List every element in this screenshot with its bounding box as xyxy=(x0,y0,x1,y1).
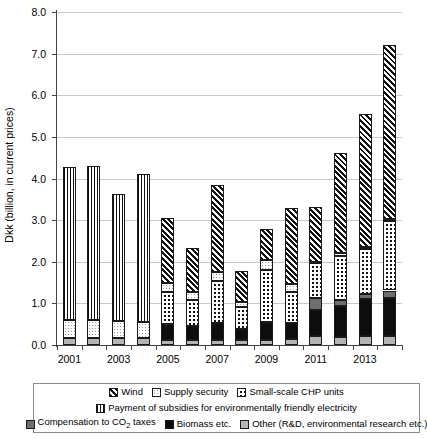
bar-segment-supply xyxy=(285,284,298,292)
bar-segment-subsidy xyxy=(112,194,125,321)
legend-swatch-other-icon xyxy=(240,420,249,429)
bar-segment-co2 xyxy=(359,294,372,299)
legend-item-supply[interactable]: Supply security xyxy=(152,384,228,400)
bar-segment-other xyxy=(211,340,224,345)
bar-2003[interactable] xyxy=(112,12,125,345)
x-tick-mark xyxy=(131,345,132,350)
x-tick-mark xyxy=(57,345,58,350)
x-tick-mark xyxy=(82,345,83,350)
y-tick-label: 0.0 xyxy=(10,339,46,351)
bar-segment-supply xyxy=(186,292,199,300)
bar-2008[interactable] xyxy=(235,12,248,345)
bar-segment-biomass xyxy=(235,329,248,340)
bar-2010[interactable] xyxy=(285,12,298,345)
bar-segment-wind xyxy=(334,153,347,254)
x-tick-mark xyxy=(328,345,329,350)
bar-segment-supply xyxy=(87,320,100,338)
y-tick-label: 5.0 xyxy=(10,131,46,143)
bar-segment-chp xyxy=(383,221,396,290)
bar-segment-supply xyxy=(334,253,347,255)
bar-segment-chp xyxy=(260,270,273,322)
x-tick-label-2005: 2005 xyxy=(148,353,188,365)
bar-segment-other xyxy=(309,336,322,345)
bar-segment-wind xyxy=(309,207,322,262)
legend-label: Compensation to CO2 taxes xyxy=(38,414,156,434)
x-tick-label-2007: 2007 xyxy=(197,353,237,365)
bar-segment-wind xyxy=(285,208,298,284)
x-tick-mark xyxy=(303,345,304,350)
legend-item-co2[interactable]: Compensation to CO2 taxes xyxy=(26,414,156,434)
bar-segment-other xyxy=(359,336,372,345)
legend-swatch-biomass-icon xyxy=(165,420,174,429)
bar-segment-wind xyxy=(186,248,199,292)
bar-segment-biomass xyxy=(161,324,174,339)
x-tick-label-2013: 2013 xyxy=(345,353,385,365)
bar-segment-chp xyxy=(309,263,322,298)
bar-segment-other xyxy=(112,338,125,345)
bar-2012[interactable] xyxy=(334,12,347,345)
x-tick-mark xyxy=(353,345,354,350)
bar-2001[interactable] xyxy=(63,12,76,345)
bar-segment-biomass xyxy=(285,323,298,340)
bar-2011[interactable] xyxy=(309,12,322,345)
bar-segment-biomass xyxy=(383,298,396,337)
legend-swatch-supply-icon xyxy=(152,388,161,397)
bar-segment-other xyxy=(63,338,76,345)
x-tick-mark xyxy=(279,345,280,350)
bar-segment-supply xyxy=(211,272,224,281)
bar-segment-co2 xyxy=(309,298,322,309)
bar-segment-subsidy xyxy=(63,167,76,320)
bar-2002[interactable] xyxy=(87,12,100,345)
x-tick-mark xyxy=(254,345,255,350)
legend-swatch-subsidy-icon xyxy=(96,404,105,413)
legend-label: Biomass etc. xyxy=(177,416,231,432)
bar-segment-wind xyxy=(161,218,174,283)
bar-segment-other xyxy=(285,339,298,345)
x-tick-mark xyxy=(156,345,157,350)
x-tick-label-2003: 2003 xyxy=(99,353,139,365)
bar-2014[interactable] xyxy=(383,12,396,345)
bar-segment-biomass xyxy=(211,323,224,340)
bar-2005[interactable] xyxy=(161,12,174,345)
legend-swatch-co2-icon xyxy=(26,420,35,429)
legend-item-other[interactable]: Other (R&D, environmental research etc.) xyxy=(240,416,427,432)
bar-2009[interactable] xyxy=(260,12,273,345)
x-tick-mark xyxy=(230,345,231,350)
bar-group xyxy=(57,12,402,345)
chart-legend: WindSupply securitySmall-scale CHP units… xyxy=(33,383,420,433)
bar-segment-biomass xyxy=(334,306,347,337)
x-tick-mark xyxy=(402,345,403,350)
legend-label: Wind xyxy=(121,384,143,400)
bar-2013[interactable] xyxy=(359,12,372,345)
bar-segment-subsidy xyxy=(87,166,100,319)
bar-2007[interactable] xyxy=(211,12,224,345)
bar-segment-supply xyxy=(359,247,372,249)
bar-segment-other xyxy=(260,340,273,345)
x-tick-mark xyxy=(106,345,107,350)
legend-swatch-wind-icon xyxy=(109,388,118,397)
legend-label: Other (R&D, environmental research etc.) xyxy=(252,416,427,432)
bar-segment-chp xyxy=(285,292,298,322)
bar-segment-co2 xyxy=(383,291,396,298)
legend-item-biomass[interactable]: Biomass etc. xyxy=(165,416,231,432)
bar-segment-supply xyxy=(112,321,125,338)
bar-segment-co2 xyxy=(334,300,347,305)
bar-segment-other xyxy=(235,340,248,345)
bar-segment-supply xyxy=(235,302,248,307)
bar-segment-other xyxy=(334,337,347,345)
bar-segment-supply xyxy=(383,219,396,221)
bar-segment-other xyxy=(161,340,174,345)
legend-item-chp[interactable]: Small-scale CHP units xyxy=(237,384,343,400)
legend-item-wind[interactable]: Wind xyxy=(109,384,143,400)
x-tick-mark xyxy=(205,345,206,350)
bar-segment-chp xyxy=(235,307,248,329)
bar-segment-supply xyxy=(260,260,273,270)
bar-2004[interactable] xyxy=(137,12,150,345)
bar-segment-chp xyxy=(359,249,372,294)
y-tick-label: 3.0 xyxy=(10,214,46,226)
bar-segment-chp xyxy=(186,300,199,326)
bar-2006[interactable] xyxy=(186,12,199,345)
bar-segment-biomass xyxy=(260,322,273,340)
x-tick-label-2009: 2009 xyxy=(246,353,286,365)
